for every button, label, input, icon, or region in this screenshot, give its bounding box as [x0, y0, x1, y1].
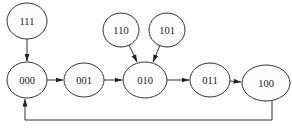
node-001: 001 [64, 63, 104, 97]
node-111: 111 [7, 3, 47, 39]
node-010-label: 010 [137, 75, 153, 86]
node-110-label: 110 [113, 25, 128, 36]
node-000-label: 000 [19, 75, 35, 86]
node-111-label: 111 [20, 16, 35, 27]
node-000: 000 [7, 62, 47, 98]
node-011-label: 011 [202, 75, 217, 86]
node-001-label: 001 [76, 75, 92, 86]
node-011: 011 [190, 63, 230, 97]
node-010: 010 [123, 62, 167, 98]
edge-011-to-100 [230, 81, 241, 82]
node-100-label: 100 [258, 78, 274, 89]
node-100: 100 [242, 65, 290, 101]
edge-101-to-010 [153, 45, 160, 62]
edge-100-to-000-feedback [25, 99, 272, 120]
node-101: 101 [149, 13, 185, 47]
node-110: 110 [103, 13, 139, 47]
node-101-label: 101 [159, 25, 175, 36]
edge-110-to-010 [129, 45, 137, 62]
state-diagram: 111 000 001 110 101 010 011 100 [0, 0, 292, 130]
